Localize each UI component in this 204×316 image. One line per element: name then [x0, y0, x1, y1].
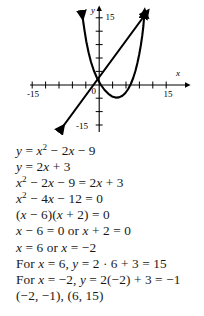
y-axis	[96, 10, 103, 132]
x-axis	[30, 82, 186, 89]
solution-steps-list: y = x2 − 2x − 9 y = 2x + 3 x2 − 2x − 9 =…	[0, 143, 204, 304]
graph-svg: x y 15 -15 15 -15 0	[0, 0, 204, 143]
worked-solution-page: x y 15 -15 15 -15 0 y = x2 − 2x − 9 y = …	[0, 0, 204, 316]
solution-line-1: y = x2 − 2x − 9	[16, 143, 204, 159]
x-axis-label: x	[175, 68, 180, 78]
solution-line-2: y = 2x + 3	[16, 159, 204, 175]
solution-line-5: (x − 6)(x + 2) = 0	[16, 207, 204, 223]
solution-line-6: x − 6 = 0 or x + 2 = 0	[16, 223, 204, 239]
x-max-tick-label: 15	[164, 89, 174, 99]
solution-line-3: x2 − 2x − 9 = 2x + 3	[16, 175, 204, 191]
x-min-tick-label: -15	[27, 89, 39, 99]
linear-curve	[60, 16, 145, 131]
y-max-tick-label: 15	[106, 12, 116, 22]
solution-line-9: For x = −2, y = 2(−2) + 3 = −1	[16, 272, 204, 288]
solution-line-7: x = 6 or x = −2	[16, 240, 204, 256]
solution-line-10: (−2, −1), (6, 15)	[16, 288, 204, 304]
y-min-tick-label: -15	[76, 121, 88, 131]
y-axis-label: y	[90, 5, 95, 15]
origin-label: 0	[92, 86, 97, 96]
solution-line-8: For x = 6, y = 2 · 6 + 3 = 15	[16, 256, 204, 272]
coordinate-graph: x y 15 -15 15 -15 0	[0, 0, 204, 143]
solution-line-4: x2 − 4x − 12 = 0	[16, 191, 204, 207]
